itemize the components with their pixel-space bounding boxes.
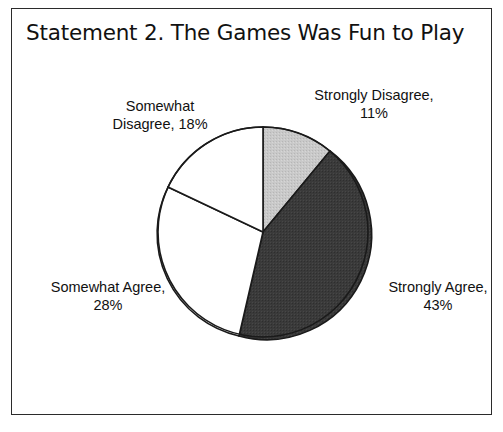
pie-chart-svg [12, 9, 492, 415]
pie-label-somewhat-disagree-line2: Disagree, 18% [85, 115, 235, 133]
pie-label-strongly-disagree: Strongly Disagree, 11% [289, 86, 459, 123]
pie-label-somewhat-disagree: Somewhat Disagree, 18% [85, 97, 235, 134]
pie-label-somewhat-disagree-line1: Somewhat [85, 97, 235, 115]
pie-label-somewhat-agree: Somewhat Agree, 28% [20, 278, 196, 315]
pie-label-strongly-disagree-line1: Strongly Disagree, [289, 86, 459, 104]
pie-label-strongly-agree: Strongly Agree, 43% [364, 278, 492, 315]
pie-label-strongly-agree-line2: 43% [364, 296, 492, 314]
figure-frame: Statement 2. The Games Was Fun to Play [11, 8, 492, 415]
pie-label-strongly-disagree-line2: 11% [289, 104, 459, 122]
pie-label-strongly-agree-line1: Strongly Agree, [364, 278, 492, 296]
pie-chart: Strongly Disagree, 11% Somewhat Disagree… [12, 9, 492, 415]
pie-label-somewhat-agree-line2: 28% [20, 296, 196, 314]
pie-label-somewhat-agree-line1: Somewhat Agree, [20, 278, 196, 296]
